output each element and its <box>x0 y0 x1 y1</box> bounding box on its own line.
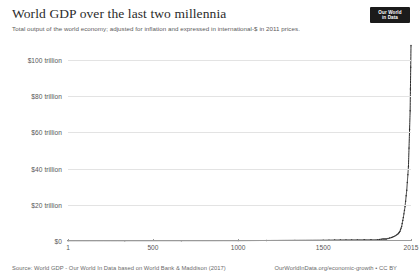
data-point <box>394 235 395 236</box>
license-note[interactable]: OurWorldInData.org/economic-growth • CC … <box>274 265 409 271</box>
data-point <box>410 67 411 68</box>
data-point <box>408 147 409 148</box>
data-point <box>407 174 408 175</box>
y-axis-tick-label: $60 trillion <box>31 129 62 136</box>
data-point <box>408 166 409 167</box>
chart-footer: Source: World GDP - Our World In Data ba… <box>12 265 409 271</box>
data-point <box>409 110 410 111</box>
data-point <box>409 129 410 130</box>
x-axis-tick <box>153 239 154 241</box>
gridline <box>68 60 411 61</box>
gridline <box>68 205 411 206</box>
x-axis-tick-label: 2015 <box>404 244 419 251</box>
data-point <box>403 217 404 218</box>
data-point <box>403 213 404 214</box>
x-axis-tick-label: 1500 <box>316 244 331 251</box>
data-point <box>389 237 390 238</box>
page-title: World GDP over the last two millennia <box>12 6 409 22</box>
data-point <box>400 227 401 228</box>
gridline <box>68 169 411 170</box>
x-axis-tick <box>411 239 412 241</box>
plot-area: $0$20 trillion$40 trillion$60 trillion$8… <box>68 60 411 241</box>
data-point <box>405 200 406 201</box>
chart-subtitle: Total output of the world economy; adjus… <box>12 24 409 33</box>
data-point <box>401 226 402 227</box>
y-axis-tick-label: $80 trillion <box>31 93 62 100</box>
data-point <box>404 210 405 211</box>
data-point <box>400 229 401 230</box>
x-axis-tick <box>238 239 239 241</box>
gridline <box>68 96 411 97</box>
x-axis-tick <box>323 239 324 241</box>
data-point <box>402 220 403 221</box>
data-point <box>410 45 411 46</box>
x-axis-tick-label: 500 <box>147 244 158 251</box>
data-point <box>404 206 405 207</box>
data-point <box>405 195 406 196</box>
y-axis-tick-label: $20 trillion <box>31 201 62 208</box>
data-point <box>410 88 411 89</box>
gdp-line-path <box>68 46 411 241</box>
x-axis-tick-label: 1 <box>66 244 70 251</box>
data-point <box>406 190 407 191</box>
our-world-in-data-logo[interactable]: Our World in Data <box>370 7 410 23</box>
y-axis-tick-label: $0 <box>55 238 62 245</box>
x-axis <box>68 240 411 241</box>
chart-page: World GDP over the last two millennia To… <box>0 0 419 278</box>
x-axis-tick-label: 1000 <box>231 244 246 251</box>
y-axis-tick-label: $40 trillion <box>31 165 62 172</box>
chart-header: World GDP over the last two millennia To… <box>12 6 409 33</box>
gridline <box>68 132 411 133</box>
source-note: Source: World GDP - Our World In Data ba… <box>12 265 226 271</box>
data-point <box>399 231 400 232</box>
data-point <box>395 235 396 236</box>
data-point <box>396 234 397 235</box>
x-axis-tick <box>68 239 69 241</box>
data-point <box>402 223 403 224</box>
y-axis-tick-label: $100 trillion <box>28 57 62 64</box>
data-point <box>407 182 408 183</box>
logo-line-2: in Data <box>382 15 398 20</box>
gdp-line-series <box>68 60 411 241</box>
